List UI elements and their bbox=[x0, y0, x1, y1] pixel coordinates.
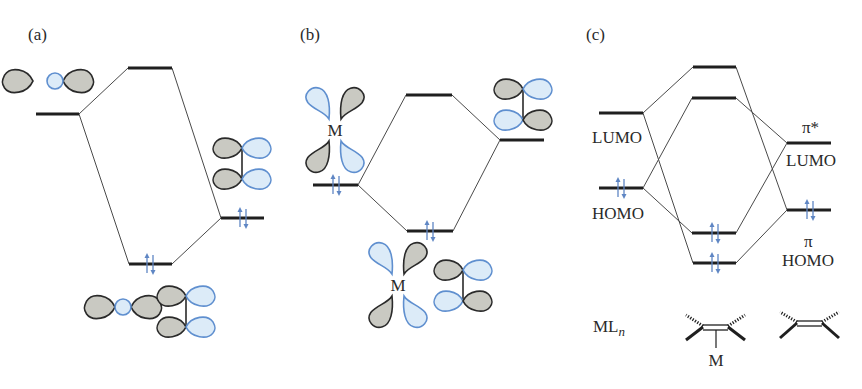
pi-orbital-icon bbox=[213, 138, 271, 189]
panel-label-a: (a) bbox=[28, 25, 47, 44]
pi-star-label: π* bbox=[802, 118, 819, 137]
panel-c: (c) LUMO HOMO π* bbox=[586, 25, 839, 370]
pi-star-orbital-icon bbox=[494, 79, 552, 130]
panel-label-c: (c) bbox=[586, 25, 605, 44]
metal-lumo-label: LUMO bbox=[592, 128, 642, 147]
alkene-lumo-label: LUMO bbox=[786, 151, 836, 170]
metal-label: M bbox=[708, 351, 723, 370]
panel-b: (b) M bbox=[300, 25, 552, 329]
sigma-orbital-icon bbox=[2, 70, 93, 93]
free-alkene-structure bbox=[780, 312, 839, 338]
pi-orbital-icon bbox=[157, 286, 215, 337]
panel-label-b: (b) bbox=[300, 25, 320, 44]
metal-homo-label: HOMO bbox=[592, 204, 644, 223]
connector-lines bbox=[358, 95, 500, 231]
metal-label: M bbox=[327, 121, 342, 140]
d-orbital-icon: M bbox=[305, 86, 366, 174]
panel-a: (a) bbox=[2, 25, 271, 337]
mln-label: MLn bbox=[593, 317, 625, 339]
metal-label: M bbox=[390, 276, 405, 295]
pi-label: π bbox=[804, 232, 813, 251]
alkene-homo-label: HOMO bbox=[782, 251, 834, 270]
connector-lines bbox=[79, 68, 221, 264]
d-orbital-icon: M bbox=[368, 241, 429, 329]
coordinated-alkene-structure: M bbox=[686, 315, 745, 370]
sigma-orbital-icon bbox=[84, 296, 161, 319]
mo-diagram-figure: (a) bbox=[0, 0, 862, 389]
pi-star-orbital-icon bbox=[434, 260, 492, 311]
